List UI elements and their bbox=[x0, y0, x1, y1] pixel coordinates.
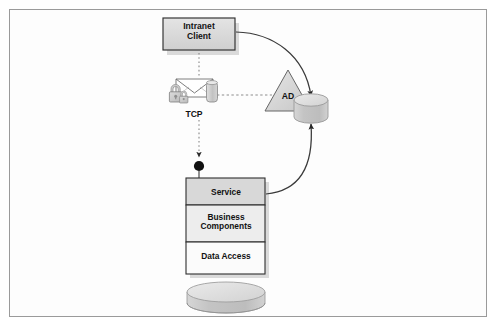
client-to-directory-curve bbox=[236, 32, 311, 96]
diagram-vector-layer bbox=[0, 0, 498, 328]
service-to-directory-curve bbox=[266, 124, 311, 194]
application-database-cylinder[interactable] bbox=[187, 282, 265, 313]
intranet-client-label: IntranetClient bbox=[163, 22, 235, 41]
tier-service-label: Service bbox=[187, 188, 265, 197]
tier-business-label: BusinessComponents bbox=[187, 213, 265, 232]
secure-tcp-channel bbox=[169, 79, 217, 103]
client-label-line1: Intranet bbox=[183, 21, 215, 31]
client-label-line2: Client bbox=[187, 31, 211, 41]
tcp-label: TCP bbox=[176, 110, 212, 120]
tier-business-label-line2: Components bbox=[200, 221, 251, 231]
diagram-canvas: IntranetClient TCP AD Service BusinessCo… bbox=[0, 0, 498, 328]
server-node-icon bbox=[207, 81, 218, 102]
tier-data-access-label: Data Access bbox=[187, 252, 265, 261]
ad-label: AD bbox=[275, 92, 301, 102]
provided-interface-dot bbox=[194, 161, 204, 171]
